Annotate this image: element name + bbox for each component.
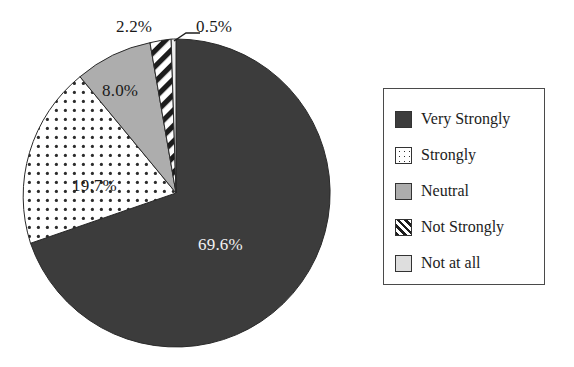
pie-chart-figure: 69.6% 19.7% 8.0% 2.2% 0.5% Very Strongly… bbox=[0, 0, 574, 367]
legend-item-very-strongly: Very Strongly bbox=[395, 101, 544, 137]
legend: Very Strongly Strongly Neutral Not Stron… bbox=[383, 88, 545, 285]
legend-label-not-strongly: Not Strongly bbox=[421, 219, 504, 235]
solid-gray-swatch-icon bbox=[395, 183, 412, 200]
legend-item-neutral: Neutral bbox=[395, 173, 544, 209]
solid-dark-swatch-icon bbox=[395, 111, 412, 128]
legend-item-not-at-all: Not at all bbox=[395, 245, 544, 281]
pie-plot-area: 69.6% 19.7% 8.0% 2.2% 0.5% bbox=[0, 0, 370, 367]
legend-label-not-at-all: Not at all bbox=[421, 255, 481, 271]
legend-item-not-strongly: Not Strongly bbox=[395, 209, 544, 245]
solid-light-swatch-icon bbox=[395, 255, 412, 272]
dotted-swatch-icon bbox=[395, 147, 412, 164]
slice-value-neutral: 8.0% bbox=[102, 82, 138, 99]
pie-svg bbox=[0, 0, 370, 367]
slice-value-very-strongly: 69.6% bbox=[198, 236, 243, 253]
slice-value-strongly: 19.7% bbox=[72, 177, 117, 194]
legend-label-strongly: Strongly bbox=[421, 147, 476, 163]
slice-value-not-at-all: 0.5% bbox=[196, 18, 232, 35]
legend-label-neutral: Neutral bbox=[421, 183, 469, 199]
diagonal-stripe-swatch-icon bbox=[395, 219, 412, 236]
legend-item-strongly: Strongly bbox=[395, 137, 544, 173]
legend-label-very-strongly: Very Strongly bbox=[421, 111, 510, 127]
slice-value-not-strongly: 2.2% bbox=[116, 18, 152, 35]
